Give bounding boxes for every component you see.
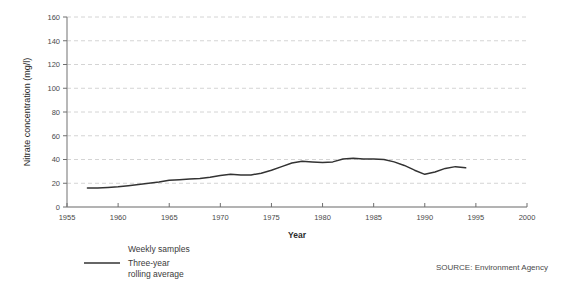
- y-axis-tick-label: 100: [47, 84, 60, 93]
- x-axis-tick-label: 1995: [468, 213, 485, 222]
- chart-canvas: 020406080100120140160 195519601965197019…: [0, 0, 564, 284]
- x-axis-tick-label: 1985: [365, 213, 382, 222]
- x-axis-tick-label: 1980: [314, 213, 331, 222]
- nitrate-concentration-chart: 020406080100120140160 195519601965197019…: [0, 0, 564, 284]
- y-axis-tick-label: 60: [52, 132, 60, 141]
- y-axis-tick-label: 120: [47, 60, 60, 69]
- x-axis-tick-label: 1965: [161, 213, 178, 222]
- legend-label-rolling-average-line2: rolling average: [128, 269, 184, 279]
- x-axis-tick-label: 1960: [110, 213, 127, 222]
- x-axis-title: Year: [288, 230, 307, 240]
- y-axis-title: Nitrate concentration (mg/l): [22, 58, 32, 167]
- x-axis-tick-label: 2000: [519, 213, 536, 222]
- x-axis-tick-label: 1970: [212, 213, 229, 222]
- y-axis-tick-label: 0: [56, 203, 60, 212]
- y-axis-tick-label: 140: [47, 37, 60, 46]
- chart-background: [0, 0, 564, 284]
- x-axis-tick-label: 1955: [59, 213, 76, 222]
- y-axis-tick-label: 160: [47, 13, 60, 22]
- source-note: SOURCE: Environment Agency: [436, 263, 548, 272]
- y-axis-tick-label: 20: [52, 179, 60, 188]
- y-axis-tick-label: 80: [52, 108, 60, 117]
- y-axis-tick-label: 40: [52, 155, 60, 164]
- x-axis-tick-label: 1975: [263, 213, 280, 222]
- legend-label-rolling-average-line1: Three-year: [128, 258, 170, 268]
- legend-label-weekly-samples: Weekly samples: [128, 244, 190, 254]
- x-axis-tick-label: 1990: [416, 213, 433, 222]
